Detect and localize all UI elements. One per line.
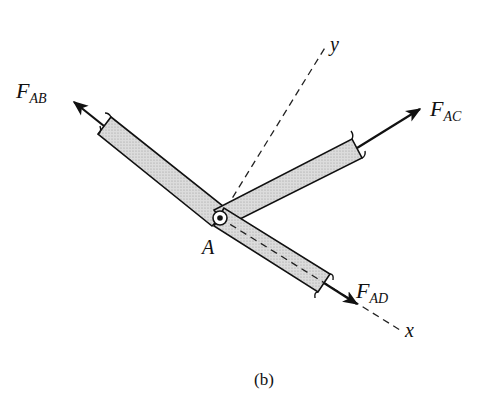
member-ab	[98, 113, 228, 226]
x-axis-label: x	[405, 320, 414, 340]
force-arrow-ac	[357, 109, 420, 148]
figure-caption: (b)	[254, 370, 274, 390]
joint-pin	[213, 211, 227, 225]
free-body-diagram: FAB FAC FAD y x A (b)	[0, 0, 484, 408]
force-label-ab: FAB	[16, 80, 47, 106]
joint-label-a: A	[202, 237, 214, 257]
force-label-ad: FAD	[356, 280, 388, 306]
member-ad	[214, 208, 333, 298]
y-axis-label: y	[330, 34, 339, 54]
member-ac	[214, 131, 365, 226]
diagram-graphics	[0, 0, 484, 408]
force-label-ac: FAC	[430, 98, 461, 124]
force-arrow-ab	[74, 102, 104, 126]
force-arrow-ad	[324, 283, 357, 304]
